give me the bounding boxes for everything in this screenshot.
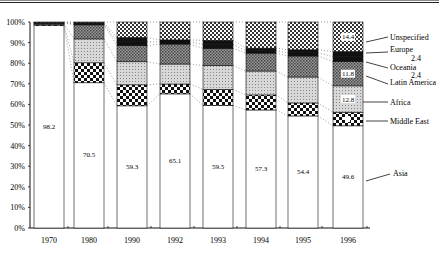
asia-value-label: 57.3 [255,165,268,173]
legend-unspecified: Unspecified [390,33,429,42]
label-1996-latin-america: 11.8 [342,70,354,78]
segment-oceania [117,42,147,46]
asia-value-label: 54.4 [297,168,310,176]
bar-1970: 98.2 [34,22,64,228]
legend-latin-america: Latin America [390,78,436,87]
segment-europe [203,40,233,44]
y-tick-label: 70% [10,80,25,89]
x-tick-label: 1996 [340,236,356,245]
y-tick-label: 100% [6,18,25,27]
asia-value-label: 59.3 [126,163,139,171]
bar-1993: 59.5 [203,22,233,228]
segment-africa [117,62,147,85]
segment-unspecified [203,22,233,40]
segment-africa [203,65,233,89]
y-tick-label: 20% [10,183,25,192]
x-tick-label: 1992 [167,236,183,245]
segment-middle-east [288,103,318,116]
x-tick-label: 1995 [295,236,311,245]
legend-europe-value: 2.4 [411,54,421,63]
bar-1990: 59.3 [117,22,147,228]
segment-africa [74,39,104,63]
asia-value-label: 65.1 [169,157,182,165]
legend-africa: Africa [390,98,411,107]
y-tick-label: 50% [10,121,25,130]
asia-value-label: 59.5 [212,163,225,171]
segment-africa [160,64,190,84]
asia-value-label: 70.5 [83,151,96,159]
segment-africa [288,77,318,103]
label-1996-unspecified: 14.4 [342,33,355,41]
y-tick-label: 60% [10,100,25,109]
segment-europe [160,40,190,42]
x-tick-label: 1980 [81,236,97,245]
y-tick-label: 90% [10,39,25,48]
legend-middle-east: Middle East [390,117,430,126]
asia-value-label: 98.2 [43,123,56,131]
segment-unspecified [246,22,276,48]
label-1996-africa: 12.8 [342,96,355,104]
x-tick-label: 1970 [41,236,57,245]
segment-africa [246,71,276,95]
segment-oceania [203,44,233,48]
segment-latin-america [74,25,104,39]
legend-callouts: Unspecified Europe 2.4 Oceania 2.4 Latin… [363,33,436,181]
bar-1992: 65.1 [160,22,190,228]
bar-1996: 49.6 [333,22,363,228]
segment-unspecified [288,22,318,50]
segment-latin-america [203,48,233,65]
segment-middle-east [160,84,190,94]
segment-latin-america [246,53,276,71]
segment-unspecified [74,22,104,23]
segment-europe [288,50,318,53]
segment-middle-east [74,63,104,83]
y-tick-label: 40% [10,142,25,151]
bar-1995: 54.4 [288,22,318,228]
bar-1980: 70.5 [74,22,104,228]
y-tick-label: 80% [10,59,25,68]
segment-unspecified [160,22,190,40]
x-tick-label: 1990 [124,236,140,245]
segment-middle-east [117,85,147,106]
segment-latin-america [117,46,147,62]
segment-europe [117,38,147,42]
bar-1994: 57.3 [246,22,276,228]
segment-unspecified [117,22,147,38]
segment-oceania [288,53,318,56]
legend-asia: Asia [393,169,408,178]
x-tick-label: 1994 [253,236,269,245]
x-axis: 19701980199019921993199419951996 [41,226,367,245]
stacked-bar-chart: 0%10%20%30%40%50%60%70%80%90%100% 98.270… [0,0,439,263]
segment-middle-east [246,95,276,110]
segment-latin-america [288,56,318,77]
segment-middle-east [203,89,233,105]
y-tick-label: 10% [10,203,25,212]
x-tick-label: 1993 [210,236,226,245]
segment-oceania [246,51,276,53]
segment-oceania [160,42,190,44]
segment-europe [246,48,276,50]
bars-group: 98.270.559.365.159.557.354.449.614.411.8… [34,22,363,228]
asia-value-label: 49.6 [342,173,355,181]
y-tick-label: 0% [14,224,25,233]
legend-europe: Europe [390,45,414,54]
segment-latin-america [160,44,190,64]
y-tick-label: 30% [10,162,25,171]
segment-oceania [333,57,363,62]
segment-europe [333,52,363,57]
